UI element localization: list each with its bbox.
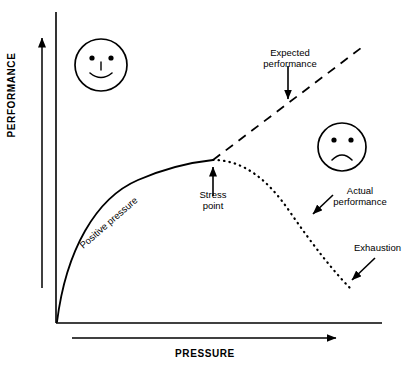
exhaustion-arrow (352, 258, 375, 280)
happy-face-icon (75, 39, 127, 91)
sad-face-icon (318, 123, 366, 171)
exhaustion-label: Exhaustion (354, 243, 415, 254)
y-axis-title: PERFORMANCE (6, 40, 17, 150)
expected-performance-label: Expected performance (252, 48, 328, 69)
stress-performance-diagram: PERFORMANCE PRESSURE Expected performanc… (0, 0, 415, 370)
actual-performance-curve (213, 160, 350, 288)
stress-point-label: Stress point (185, 190, 241, 211)
actual-performance-label: Actual performance (322, 186, 398, 207)
x-axis-title: PRESSURE (160, 348, 250, 359)
